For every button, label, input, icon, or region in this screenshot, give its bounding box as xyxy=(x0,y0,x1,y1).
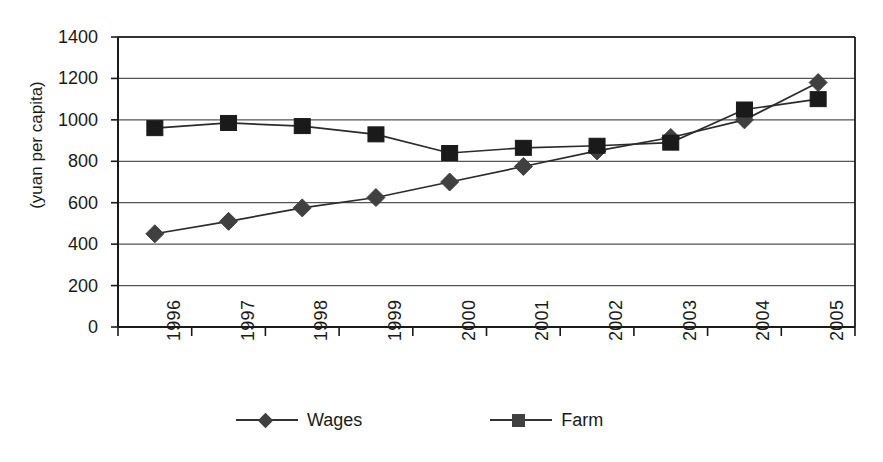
square-marker-icon xyxy=(512,414,525,427)
farm-data-point xyxy=(810,92,826,107)
farm-data-point xyxy=(147,121,163,136)
wages-data-point xyxy=(367,189,385,207)
farm-data-point xyxy=(368,127,384,142)
farm-data-point xyxy=(515,140,531,155)
chart-legend: Wages Farm xyxy=(236,402,676,438)
wages-data-point xyxy=(220,212,238,230)
farm-data-point xyxy=(221,115,237,130)
wages-data-point xyxy=(293,199,311,217)
wages-data-point xyxy=(146,225,164,243)
wages-line xyxy=(155,83,818,234)
farm-data-point xyxy=(294,119,310,134)
legend-label-farm: Farm xyxy=(561,410,603,431)
legend-item-wages[interactable]: Wages xyxy=(236,410,362,431)
wages-data-point xyxy=(441,173,459,191)
farm-line-swatch xyxy=(490,411,552,429)
farm-data-point xyxy=(736,102,752,117)
chart-container: (yuan per capita) 1400120010008006004002… xyxy=(0,0,883,462)
farm-data-point xyxy=(589,138,605,153)
wages-data-point xyxy=(514,157,532,175)
farm-data-point xyxy=(442,146,458,161)
wages-line-swatch xyxy=(236,411,298,429)
farm-data-point xyxy=(663,135,679,150)
legend-label-wages: Wages xyxy=(307,410,362,431)
legend-item-farm[interactable]: Farm xyxy=(490,410,603,431)
diamond-marker-icon xyxy=(258,413,274,429)
wages-data-point xyxy=(809,74,827,92)
plot-area xyxy=(0,0,883,462)
